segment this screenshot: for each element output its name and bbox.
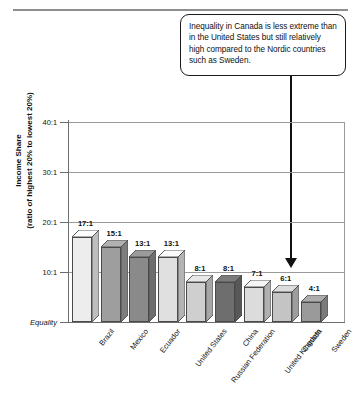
bar-top-face	[186, 275, 206, 282]
bar-top-face	[101, 240, 121, 247]
callout-box: Inequality in Canada is less extreme tha…	[180, 14, 346, 76]
header-rule	[13, 9, 348, 11]
x-axis-label-united-states: United States	[193, 327, 228, 368]
bar-value-label: 6:1	[266, 274, 306, 283]
x-axis-label-text: Sweden	[329, 327, 353, 354]
bar-value-label: 17:1	[66, 219, 106, 228]
bar-top-face	[129, 250, 149, 257]
y-tick-label: Equality	[5, 318, 57, 327]
x-axis-label-mexico: Mexico	[128, 327, 150, 352]
x-axis-label-brazil: Brazil	[97, 327, 116, 348]
bar-top-face	[272, 285, 292, 292]
y-tick-label: 40:1	[5, 118, 57, 127]
bar-united-states	[158, 257, 178, 322]
bar-side-face	[121, 240, 128, 322]
bar-top-face	[72, 230, 92, 237]
bar-front-face	[101, 247, 121, 322]
bar-front-face	[158, 257, 178, 322]
x-axis-label-ecuador: Ecuador	[158, 327, 183, 355]
bar-top-face	[158, 250, 178, 257]
bar-value-label: 4:1	[294, 284, 334, 293]
inequality-bar-chart-figure: Inequality in Canada is less extreme tha…	[0, 0, 362, 415]
bar-front-face	[129, 257, 149, 322]
x-axis-label-text: United States	[193, 327, 228, 368]
bar-mexico	[101, 247, 121, 322]
bar-canada	[272, 292, 292, 322]
gridline-40-1	[68, 122, 345, 123]
y-tick-label: 20:1	[5, 218, 57, 227]
y-tick-mark	[60, 222, 69, 223]
y-tick-mark	[60, 172, 69, 173]
bar-value-label: 15:1	[94, 229, 134, 238]
callout-text: Inequality in Canada is less extreme tha…	[189, 21, 338, 67]
bar-side-face	[206, 275, 213, 322]
gridline-30-1	[68, 172, 345, 173]
x-axis-label-text: Brazil	[97, 327, 116, 348]
plot-area: 17:115:113:113:18:18:17:16:14:1	[68, 122, 345, 322]
bar-russian-federation	[186, 282, 206, 322]
x-axis-label-sweden: Sweden	[329, 327, 353, 354]
bar-side-face	[92, 230, 99, 322]
bar-side-face	[178, 250, 185, 322]
bar-china	[215, 282, 235, 322]
bar-side-face	[235, 275, 242, 322]
gridline-equality	[68, 322, 345, 323]
bar-side-face	[149, 250, 156, 322]
bar-top-face	[301, 295, 321, 302]
bar-top-face	[244, 280, 264, 287]
bar-top-face	[215, 275, 235, 282]
bar-front-face	[215, 282, 235, 322]
bar-front-face	[72, 237, 92, 322]
y-tick-label: 10:1	[5, 268, 57, 277]
y-tick-mark	[60, 122, 69, 123]
bar-value-label: 13:1	[151, 239, 191, 248]
y-axis-title-line1: Income Share	[14, 134, 23, 186]
bar-front-face	[272, 292, 292, 322]
bar-front-face	[186, 282, 206, 322]
bar-side-face	[321, 295, 328, 322]
bar-side-face	[264, 280, 271, 322]
bar-united-kingdom	[244, 287, 264, 322]
bar-brazil	[72, 237, 92, 322]
gridline-20-1	[68, 222, 345, 223]
bar-front-face	[244, 287, 264, 322]
bar-ecuador	[129, 257, 149, 322]
x-axis-label-text: Mexico	[128, 327, 150, 352]
x-axis-label-text: Ecuador	[158, 327, 183, 355]
y-tick-label: 30:1	[5, 168, 57, 177]
bar-front-face	[301, 302, 321, 322]
y-tick-mark	[60, 322, 69, 323]
y-tick-mark	[60, 272, 69, 273]
bar-sweden	[301, 302, 321, 322]
